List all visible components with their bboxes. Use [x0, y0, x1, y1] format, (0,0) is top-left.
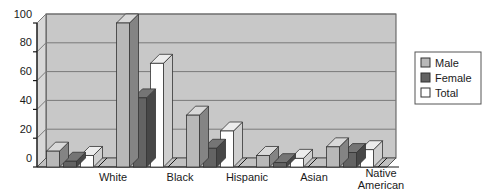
chart-canvas: 100 80 60 40 20 0 White Black Hispanic A…: [0, 0, 486, 191]
legend-swatch-female: [421, 73, 430, 82]
bar-hispanic-male: [187, 106, 209, 167]
legend-swatch-total: [421, 88, 430, 97]
legend-swatch-male: [421, 58, 430, 67]
bar-black-male: [117, 14, 139, 167]
y-tick-label-0: 0: [26, 152, 32, 164]
x-category-label-hispanic: Hispanic: [226, 171, 269, 183]
y-tick-label-100: 100: [14, 8, 32, 20]
legend: Male Female Total: [415, 52, 481, 104]
x-category-label-american: American: [358, 179, 404, 191]
legend-label-total: Total: [435, 87, 458, 99]
y-tick-label-20: 20: [20, 123, 32, 135]
plot-left-wall: [37, 14, 46, 167]
x-category-label-native: Native: [365, 167, 396, 179]
x-category-label-black: Black: [167, 171, 194, 183]
legend-label-male: Male: [435, 57, 459, 69]
y-tick-label-80: 80: [20, 36, 32, 48]
bar-chart: 100 80 60 40 20 0 White Black Hispanic A…: [0, 0, 486, 191]
x-category-label-asian: Asian: [300, 171, 328, 183]
y-tick-label-40: 40: [20, 94, 32, 106]
y-tick-label-60: 60: [20, 65, 32, 77]
legend-label-female: Female: [435, 72, 472, 84]
x-category-label-white: White: [99, 171, 127, 183]
